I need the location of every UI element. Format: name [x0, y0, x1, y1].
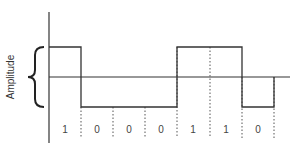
bit-label: 0 — [145, 124, 177, 135]
bit-label: 0 — [113, 124, 145, 135]
bit-label: 1 — [49, 124, 81, 135]
bit-label: 0 — [81, 124, 113, 135]
bit-label: 1 — [210, 124, 242, 135]
bit-label: 0 — [242, 124, 274, 135]
bit-label: 1 — [177, 124, 209, 135]
y-axis-label: Amplitude — [5, 55, 16, 99]
amplitude-brace-icon — [28, 47, 44, 107]
